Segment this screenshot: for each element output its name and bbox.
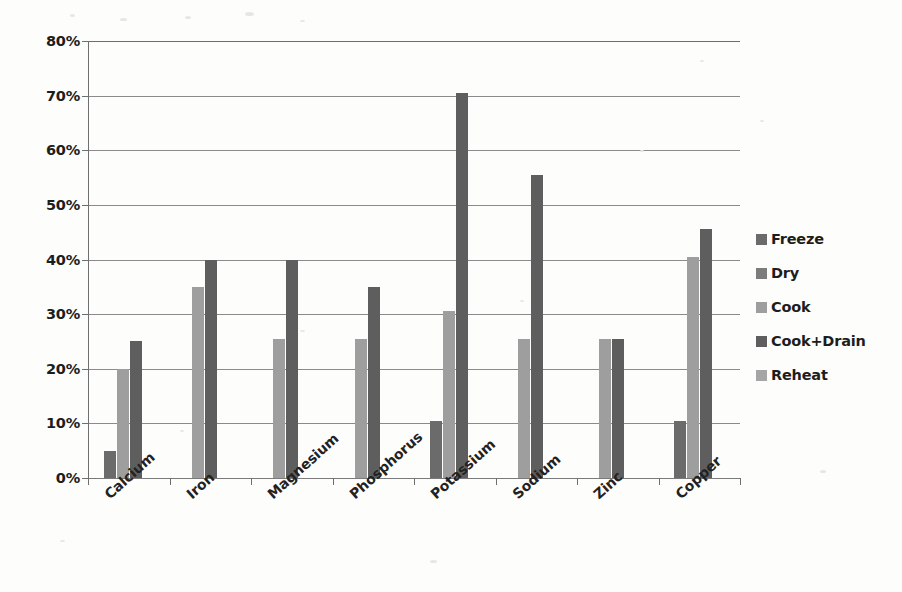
bar (612, 339, 624, 478)
x-tick-mark (740, 478, 741, 485)
bar (430, 421, 442, 478)
bar (205, 260, 217, 479)
y-tick-mark (82, 205, 89, 206)
bar (518, 339, 530, 478)
x-tick-mark (251, 478, 252, 485)
scan-speckle (760, 120, 764, 122)
scan-speckle (185, 16, 191, 19)
y-tick-label: 60% (14, 142, 80, 158)
legend-item-label: Dry (771, 265, 799, 281)
bar (456, 93, 468, 478)
legend-item-cook[interactable]: Cook (756, 290, 902, 324)
legend-item-label: Reheat (771, 367, 828, 383)
scan-speckle (70, 14, 75, 17)
x-tick-mark (170, 478, 171, 485)
bar (687, 257, 699, 478)
y-tick-label: 50% (14, 197, 80, 213)
x-tick-mark (496, 478, 497, 485)
bar-group (88, 41, 170, 478)
legend-swatch-icon (756, 302, 767, 313)
y-tick-label: 40% (14, 252, 80, 268)
bar (286, 260, 298, 479)
bar (674, 421, 686, 478)
legend-item-freeze[interactable]: Freeze (756, 222, 902, 256)
bar-group (659, 41, 741, 478)
bar-group (333, 41, 415, 478)
y-tick-label: 20% (14, 361, 80, 377)
legend-swatch-icon (756, 234, 767, 245)
bar-group (577, 41, 659, 478)
legend-item-cook-drain[interactable]: Cook+Drain (756, 324, 902, 358)
legend-item-dry[interactable]: Dry (756, 256, 902, 290)
y-tick-mark (82, 314, 89, 315)
x-tick-mark (577, 478, 578, 485)
bar (443, 311, 455, 478)
scan-speckle (180, 430, 184, 432)
scan-speckle (820, 470, 826, 473)
y-tick-mark (82, 369, 89, 370)
scan-speckle (430, 560, 437, 563)
bar (273, 339, 285, 478)
bar-group (414, 41, 496, 478)
y-tick-mark (82, 41, 89, 42)
scan-speckle (300, 330, 305, 332)
y-tick-mark (82, 423, 89, 424)
x-tick-mark (88, 478, 89, 485)
legend-swatch-icon (756, 268, 767, 279)
scan-speckle (245, 12, 254, 16)
y-tick-mark (82, 150, 89, 151)
legend-swatch-icon (756, 370, 767, 381)
x-tick-mark (414, 478, 415, 485)
bar-group (251, 41, 333, 478)
bar (117, 369, 129, 478)
legend-swatch-icon (756, 336, 767, 347)
y-tick-label: 80% (14, 33, 80, 49)
bar (599, 339, 611, 478)
x-tick-mark (333, 478, 334, 485)
y-tick-label: 0% (14, 470, 80, 486)
bar-chart: 0%10%20%30%40%50%60%70%80% CalciumIronMa… (0, 0, 902, 592)
bar (368, 287, 380, 478)
chart-legend: FreezeDryCookCook+DrainReheat (756, 222, 902, 392)
scan-speckle (520, 300, 524, 302)
scan-speckle (120, 18, 127, 21)
scan-speckle (640, 150, 644, 152)
bar (700, 229, 712, 478)
legend-item-reheat[interactable]: Reheat (756, 358, 902, 392)
y-axis-labels: 0%10%20%30%40%50%60%70%80% (0, 0, 80, 592)
y-tick-label: 10% (14, 415, 80, 431)
y-tick-label: 70% (14, 88, 80, 104)
bar (104, 451, 116, 478)
scan-speckle (60, 540, 65, 542)
scan-speckle (700, 60, 704, 62)
plot-area (88, 41, 740, 478)
bar (531, 175, 543, 478)
legend-item-label: Cook+Drain (771, 333, 866, 349)
bar-group (170, 41, 252, 478)
bar (192, 287, 204, 478)
bar (355, 339, 367, 478)
bar-group (496, 41, 578, 478)
y-tick-label: 30% (14, 306, 80, 322)
legend-item-label: Freeze (771, 231, 824, 247)
y-tick-mark (82, 260, 89, 261)
legend-item-label: Cook (771, 299, 810, 315)
scan-speckle (300, 20, 305, 22)
y-tick-mark (82, 96, 89, 97)
x-tick-mark (659, 478, 660, 485)
